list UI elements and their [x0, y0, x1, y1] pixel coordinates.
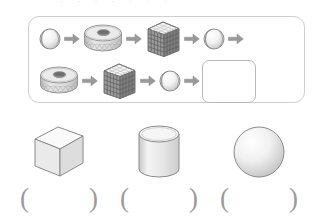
answer-blank-sphere[interactable]: (): [206, 183, 312, 213]
paren-open: (: [20, 183, 29, 213]
arrow-right-icon: [62, 28, 82, 50]
grid-cube-icon: [100, 61, 138, 101]
shape-pattern-panel: [28, 16, 305, 103]
arrow-right-icon: [226, 28, 246, 50]
arrow-right-icon: [182, 28, 202, 50]
answer-blank-cube[interactable]: (): [6, 183, 112, 213]
paren-close: ): [289, 183, 298, 213]
ring-cylinder-icon: [82, 24, 124, 54]
answer-parentheses-row: ()()(): [0, 183, 318, 213]
sphere-ball-icon: [158, 69, 182, 93]
choice-shapes: [0, 118, 318, 186]
sphere-ball-icon: [202, 27, 226, 51]
choice-cylinder: [106, 118, 212, 186]
answer-text-sphere[interactable]: [236, 183, 282, 213]
choice-sphere: [206, 118, 312, 186]
empty-answer-box[interactable]: [202, 60, 256, 103]
paren-open: (: [220, 183, 229, 213]
answer-blank-cylinder[interactable]: (): [106, 183, 212, 213]
pattern-row-1: [29, 19, 313, 59]
arrow-right-icon: [80, 70, 100, 92]
pattern-row-2: [29, 61, 313, 101]
sphere-ball-icon: [38, 27, 62, 51]
paren-close: ): [89, 183, 98, 213]
ring-cylinder-icon: [38, 66, 80, 96]
arrow-right-icon: [138, 70, 158, 92]
choice-cube: [6, 118, 112, 186]
answer-text-cylinder[interactable]: [136, 183, 182, 213]
answer-text-cube[interactable]: [36, 183, 82, 213]
paren-close: ): [189, 183, 198, 213]
paren-open: (: [120, 183, 129, 213]
arrow-right-icon: [182, 70, 202, 92]
arrow-right-icon: [124, 28, 144, 50]
cut-off-title-remnant: · · · · · · ·: [60, 0, 260, 3]
grid-cube-icon: [144, 19, 182, 59]
worksheet-page: · · · · · · · ()()(): [0, 0, 318, 216]
